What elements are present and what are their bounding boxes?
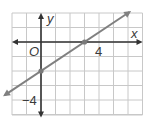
x-tick-label-4: 4 [95,45,102,58]
line-series [5,12,130,95]
data-point [38,68,43,73]
x-axis-label: x [131,27,138,40]
origin-label: O [29,45,39,58]
y-axis-label: y [47,12,54,25]
y-axis-arrow-up-icon [38,13,44,19]
plotted-line [3,11,131,96]
x-axis-arrow-left-icon [12,39,18,45]
data-point [82,39,87,44]
y-tick-label-neg4: −4 [22,94,37,107]
